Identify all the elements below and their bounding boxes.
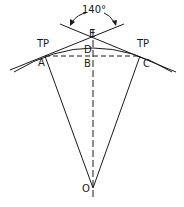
label-e: E bbox=[89, 28, 95, 39]
label-b: B bbox=[84, 58, 91, 69]
angle-label: 140° bbox=[82, 4, 106, 15]
tangent-line-left bbox=[10, 24, 124, 70]
arrow-right-icon bbox=[112, 20, 117, 26]
label-a: A bbox=[38, 57, 45, 68]
radius-oc bbox=[93, 56, 140, 188]
radius-oa bbox=[45, 56, 93, 188]
label-o: O bbox=[82, 183, 90, 194]
curve-geometry-diagram: 140° TP TP E D B A C O bbox=[0, 0, 184, 207]
label-tp-left: TP bbox=[36, 38, 49, 49]
label-c: C bbox=[143, 58, 150, 69]
label-d: D bbox=[84, 44, 92, 55]
label-tp-right: TP bbox=[136, 38, 149, 49]
